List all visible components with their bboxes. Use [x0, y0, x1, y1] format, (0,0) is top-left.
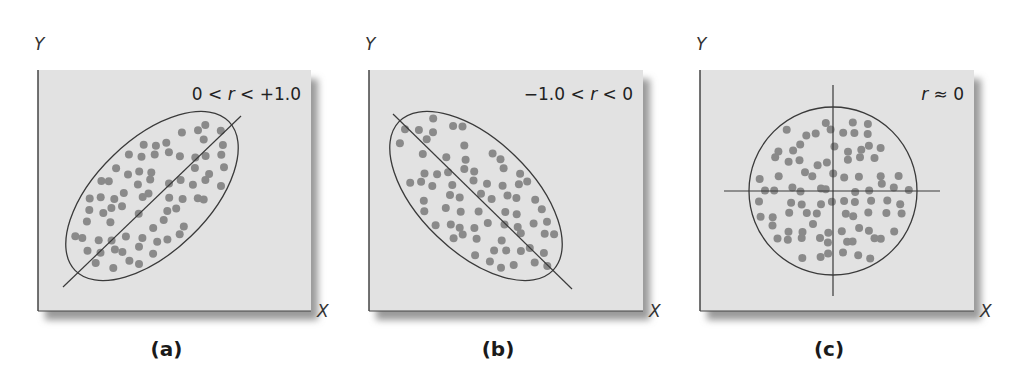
data-point: [878, 180, 886, 188]
data-point: [857, 146, 865, 154]
data-point: [423, 135, 431, 143]
x-axis-label: X: [648, 301, 661, 321]
y-axis-label: Y: [365, 34, 377, 54]
data-point: [854, 251, 862, 259]
data-point: [417, 178, 425, 186]
data-point: [162, 139, 170, 147]
data-point: [420, 207, 428, 215]
data-point: [789, 147, 797, 155]
data-point: [442, 204, 450, 212]
data-point: [428, 182, 436, 190]
data-point: [817, 200, 825, 208]
data-point: [470, 224, 478, 232]
data-point: [419, 150, 427, 158]
data-point: [501, 208, 509, 216]
data-point: [163, 235, 171, 243]
data-point: [444, 168, 452, 176]
data-point: [85, 206, 93, 214]
data-point: [840, 197, 848, 205]
data-point: [822, 185, 830, 193]
data-point: [828, 198, 836, 206]
data-point: [217, 151, 225, 159]
data-point: [111, 245, 119, 253]
data-point: [883, 196, 891, 204]
data-point: [890, 184, 898, 192]
data-point: [905, 186, 913, 194]
data-point: [788, 183, 796, 191]
data-point: [513, 210, 521, 218]
data-point: [785, 209, 793, 217]
data-point: [200, 196, 208, 204]
data-point: [450, 234, 458, 242]
data-point: [838, 227, 846, 235]
correlation-figure: Y X 0 < r < +1.0 (a) Y X −1.0 < r < 0 (b…: [0, 0, 1019, 374]
data-point: [775, 172, 783, 180]
correlation-label: −1.0 < r < 0: [524, 84, 633, 104]
data-point: [877, 144, 885, 152]
data-point: [801, 168, 809, 176]
data-point: [769, 213, 777, 221]
data-point: [201, 121, 209, 129]
data-point: [895, 172, 903, 180]
data-point: [543, 262, 551, 270]
data-point: [798, 254, 806, 262]
data-point: [446, 191, 454, 199]
plot-area: [369, 70, 643, 311]
data-point: [179, 195, 187, 203]
data-point: [865, 142, 873, 150]
data-point: [109, 264, 117, 272]
data-point: [783, 126, 791, 134]
y-axis-label: Y: [696, 34, 708, 54]
data-point: [483, 180, 491, 188]
data-point: [867, 197, 875, 205]
data-point: [83, 217, 91, 225]
data-point: [165, 148, 173, 156]
data-point: [146, 175, 154, 183]
data-point: [135, 168, 143, 176]
data-point: [460, 165, 468, 173]
data-point: [812, 130, 820, 138]
data-point: [107, 204, 115, 212]
data-point: [180, 223, 188, 231]
data-point: [429, 115, 437, 123]
data-point: [856, 153, 864, 161]
data-point: [824, 238, 832, 246]
data-point: [757, 213, 765, 221]
data-point: [865, 227, 873, 235]
data-point: [201, 176, 209, 184]
data-point: [97, 249, 105, 257]
data-point: [475, 208, 483, 216]
data-point: [471, 251, 479, 259]
data-point: [798, 234, 806, 242]
data-point: [420, 197, 428, 205]
data-point: [499, 182, 507, 190]
data-point: [540, 249, 548, 257]
data-point: [160, 216, 168, 224]
data-point: [851, 188, 859, 196]
data-point: [844, 156, 852, 164]
y-axis-label: Y: [34, 34, 46, 54]
data-point: [78, 234, 86, 242]
data-point: [106, 218, 114, 226]
data-point: [784, 236, 792, 244]
data-point: [785, 158, 793, 166]
data-point: [456, 194, 464, 202]
data-point: [501, 221, 509, 229]
data-point: [864, 130, 872, 138]
data-point: [429, 128, 437, 136]
data-point: [95, 236, 103, 244]
data-point: [149, 250, 157, 258]
data-point: [543, 218, 551, 226]
data-point: [550, 230, 558, 238]
data-point: [219, 141, 227, 149]
panel-a: Y X 0 < r < +1.0 (a): [34, 34, 329, 361]
data-point: [456, 224, 464, 232]
data-point: [877, 172, 885, 180]
panel-caption: (b): [482, 337, 515, 361]
data-point: [120, 189, 128, 197]
data-point: [432, 221, 440, 229]
data-point: [504, 191, 512, 199]
plot-area: [38, 70, 311, 311]
data-point: [502, 247, 510, 255]
data-point: [497, 155, 505, 163]
